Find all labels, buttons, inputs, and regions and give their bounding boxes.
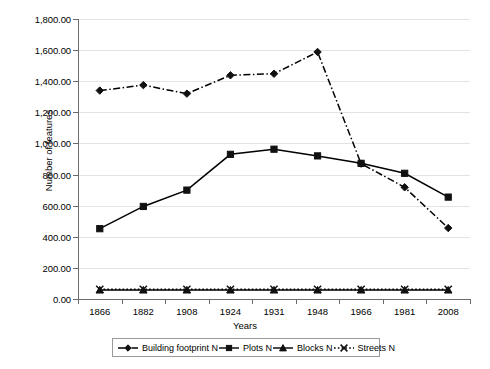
data-series-layer <box>0 0 490 369</box>
legend-item-4[interactable]: Streets N <box>333 343 396 353</box>
line-chart: Number of features 0.00200.00400.00600.0… <box>0 0 490 369</box>
y-tick-mark <box>73 112 78 113</box>
legend-label: Blocks N <box>297 343 333 353</box>
legend-marker-diamond-icon <box>117 343 139 353</box>
legend-item-2[interactable]: Plots N <box>218 343 272 353</box>
y-tick-mark <box>73 50 78 51</box>
y-tick-mark <box>73 299 78 300</box>
legend-label: Plots N <box>243 343 272 353</box>
legend-marker-x-icon <box>333 343 355 353</box>
chart-legend: Building footprint NPlots NBlocks NStree… <box>112 338 380 357</box>
y-tick-mark <box>73 237 78 238</box>
legend-item-3[interactable]: Blocks N <box>272 343 333 353</box>
legend-label: Building footprint N <box>142 343 218 353</box>
y-tick-mark <box>73 143 78 144</box>
series-2 <box>97 146 452 232</box>
y-tick-mark <box>73 175 78 176</box>
legend-label: Streets N <box>358 343 396 353</box>
y-tick-mark <box>73 19 78 20</box>
legend-marker-square-icon <box>218 343 240 353</box>
legend-item-1[interactable]: Building footprint N <box>117 343 218 353</box>
x-axis-title: Years <box>0 320 490 331</box>
y-tick-mark <box>73 268 78 269</box>
y-tick-mark <box>73 206 78 207</box>
legend-marker-triangle-icon <box>272 343 294 353</box>
y-tick-mark <box>73 81 78 82</box>
